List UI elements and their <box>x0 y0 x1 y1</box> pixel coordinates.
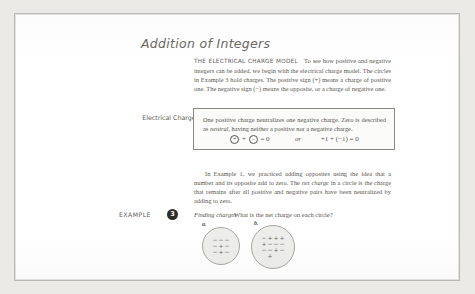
rule-text: One positive charge neutralizes one nega… <box>203 115 386 133</box>
equation-numeric: +1 + (−1) = 0 <box>321 135 359 143</box>
net-charge-paragraph: In Example 1, we practiced adding opposi… <box>194 169 391 205</box>
figure-b: −++++−−−−−+−+ <box>251 225 295 269</box>
example-number-badge: 3 <box>167 209 178 220</box>
margin-note-electrical-charges: Electrical Charges <box>133 114 199 121</box>
equation-or: or <box>295 135 301 143</box>
example-title: Finding charges <box>194 211 237 218</box>
figure-a: −−−−+−−+− <box>202 227 240 265</box>
negative-charge-mark: − <box>224 249 230 255</box>
page-title: Addition of Integers <box>141 36 270 51</box>
rule-equation: + + − = 0 or +1 + (−1) = 0 <box>194 135 394 144</box>
charge-row: + <box>261 253 285 259</box>
charge-circle-a: −−−−+−−+− <box>202 227 240 265</box>
example-question: What is the net charge on each circle? <box>234 211 333 218</box>
figure-label-a: a. <box>202 220 207 227</box>
negative-charge-icon: − <box>249 135 258 144</box>
rule-term-neutral: neutral <box>210 125 228 132</box>
equation-plus: + <box>242 135 246 143</box>
scan-background: Addition of Integers THE ELECTRICAL CHAR… <box>0 0 475 294</box>
rule-line-2: , having neither a positive nor a negati… <box>228 125 352 132</box>
charge-row: −+− <box>212 249 230 255</box>
positive-charge-icon: + <box>230 135 239 144</box>
intro-heading: THE ELECTRICAL CHARGE MODEL <box>194 58 298 64</box>
empty-charge-slot <box>279 253 285 259</box>
rule-callout-box: One positive charge neutralizes one nega… <box>193 108 395 150</box>
example-label: EXAMPLE <box>119 211 151 218</box>
equation-equals-zero: = 0 <box>260 135 269 143</box>
intro-paragraph: THE ELECTRICAL CHARGE MODEL To see how p… <box>194 56 391 93</box>
charge-circle-b: −++++−−−−−+−+ <box>251 225 295 269</box>
paragraph2-term: net charge <box>302 179 329 186</box>
textbook-page: Addition of Integers THE ELECTRICAL CHAR… <box>14 13 460 281</box>
